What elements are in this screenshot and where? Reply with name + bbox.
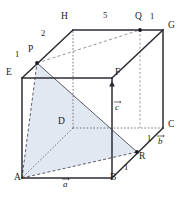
length-label-RC: 1 (147, 134, 151, 143)
vertex-label-R: R (139, 152, 145, 162)
shaded-triangle-apr (22, 63, 137, 178)
vector-c-arrow-icon (114, 100, 121, 104)
vertex-label-F: F (115, 68, 120, 78)
vertex-label-A: A (14, 173, 21, 183)
point-Q-marker (138, 28, 142, 32)
vertex-label-D: D (58, 117, 65, 127)
vector-label-c: c (115, 103, 119, 112)
point-P-marker (35, 61, 39, 65)
vector-label-b: b (158, 137, 163, 146)
vertex-label-E: E (6, 68, 12, 78)
length-label-EP: 1 (15, 50, 19, 59)
cube-figure (0, 0, 183, 197)
vertex-label-H: H (61, 12, 68, 22)
vertex-label-C: C (168, 120, 174, 130)
length-label-HQ: 5 (103, 11, 107, 20)
vector-a-arrow-icon (62, 177, 70, 181)
vertex-label-B: B (110, 173, 116, 183)
vector-label-a: a (63, 180, 68, 189)
geometry-diagram: A B C D E F G H P Q R 1 2 5 1 1 1 a (0, 0, 183, 197)
length-label-QG: 1 (150, 12, 154, 21)
vector-arrows (110, 82, 114, 86)
length-label-PH: 2 (41, 29, 45, 38)
vector-b-arrow-icon (157, 134, 165, 138)
vertex-label-G: G (168, 21, 175, 31)
vertex-label-P: P (28, 45, 33, 55)
arrow-c (110, 82, 114, 86)
vertex-label-Q: Q (135, 12, 142, 22)
length-label-BR: 1 (124, 163, 128, 172)
